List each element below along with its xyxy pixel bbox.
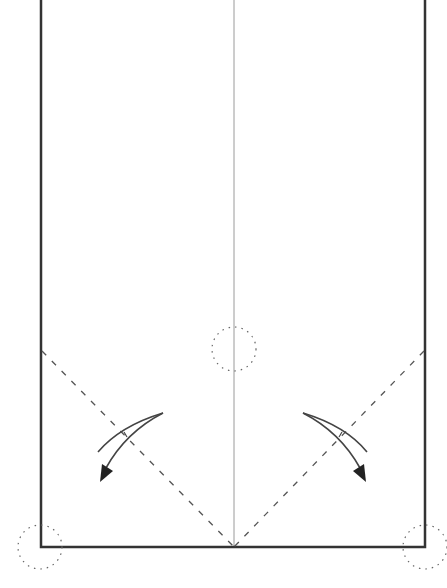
paper-outline [41, 0, 425, 547]
fold-arrow-right-icon [303, 413, 367, 482]
valley-fold-right [234, 351, 424, 547]
fold-arrow-left-icon [98, 413, 163, 482]
origami-diagram [0, 0, 447, 588]
valley-fold-left [42, 351, 234, 547]
